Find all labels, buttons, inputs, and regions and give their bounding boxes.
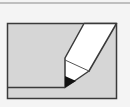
edit-icon[interactable] [0, 0, 130, 107]
edit-icon-container [0, 0, 130, 107]
